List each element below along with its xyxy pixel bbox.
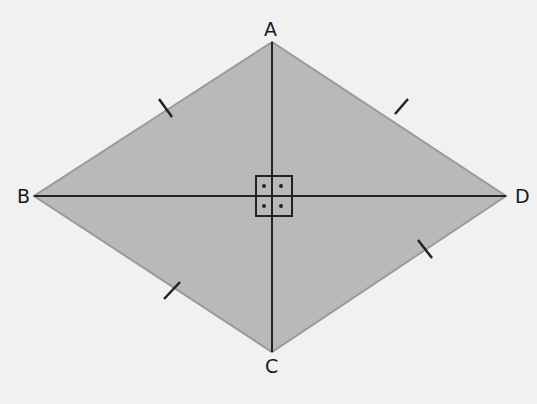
tick-ad [395,99,408,114]
vertex-label-a: A [264,20,277,39]
rhombus-diagram [0,0,537,404]
vertex-label-c: C [265,357,278,376]
vertex-label-b: B [17,187,30,206]
vertex-label-d: D [515,187,530,206]
